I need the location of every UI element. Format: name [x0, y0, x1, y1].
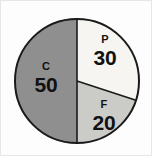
pie-label-f-value: 20 — [83, 112, 125, 134]
pie-label-p: P 30 — [85, 34, 125, 69]
pie-label-f-name: F — [83, 99, 125, 111]
pie-label-p-name: P — [85, 34, 125, 46]
pie-label-c-value: 50 — [23, 74, 69, 96]
pie-label-c: C 50 — [23, 61, 69, 96]
pie-label-p-value: 30 — [85, 47, 125, 69]
pie-label-f: F 20 — [83, 99, 125, 134]
pie-chart-figure: C 50 P 30 F 20 — [0, 0, 152, 156]
pie-label-c-name: C — [23, 61, 69, 73]
